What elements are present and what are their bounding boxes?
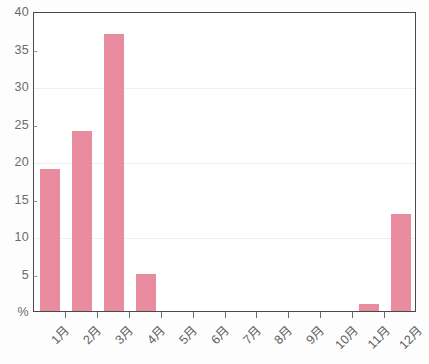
y-tick-label-15: 15 — [0, 193, 29, 206]
bar-chart: 40 35 30 25 20 15 10 5 % — [0, 0, 429, 364]
x-tick-label-9: 9月 — [301, 320, 329, 348]
bar-2[interactable] — [72, 131, 92, 311]
y-axis-unit-percent: % — [0, 306, 29, 319]
x-tick-label-1: 1月 — [46, 320, 74, 348]
y-tick-label-20: 20 — [0, 156, 29, 169]
x-tick-label-4: 4月 — [141, 320, 169, 348]
x-tick-label-7: 7月 — [237, 320, 265, 348]
bar-4[interactable] — [136, 274, 156, 312]
x-tick-label-11: 11月 — [362, 320, 394, 352]
y-axis: 40 35 30 25 20 15 10 5 % — [0, 0, 33, 364]
bar-slot-11 — [353, 13, 385, 311]
bar-3[interactable] — [104, 34, 124, 312]
x-tick-label-5: 5月 — [173, 320, 201, 348]
bar-slot-9 — [289, 13, 321, 311]
bar-slot-10 — [321, 13, 353, 311]
bar-12[interactable] — [391, 214, 411, 312]
bar-slot-12 — [385, 13, 417, 311]
bar-slot-2 — [66, 13, 98, 311]
plot-area — [33, 12, 416, 312]
bar-slot-7 — [226, 13, 258, 311]
x-tick-label-3: 3月 — [109, 320, 137, 348]
x-tick-label-8: 8月 — [269, 320, 297, 348]
y-tick-label-30: 30 — [0, 81, 29, 94]
y-tick-label-35: 35 — [0, 43, 29, 56]
bar-11[interactable] — [359, 304, 379, 312]
x-tick-label-10: 10月 — [330, 320, 363, 353]
x-tick-label-12: 12月 — [394, 320, 427, 353]
bar-slot-5 — [162, 13, 194, 311]
bar-slot-3 — [98, 13, 130, 311]
bar-slot-1 — [34, 13, 66, 311]
bars-layer — [34, 13, 415, 311]
bar-slot-6 — [194, 13, 226, 311]
x-axis: 1月 2月 3月 4月 5月 6月 7月 8月 9月 10月 11月 12月 — [33, 318, 416, 364]
y-tick-label-5: 5 — [0, 268, 29, 281]
y-tick-label-10: 10 — [0, 231, 29, 244]
x-tick-label-2: 2月 — [77, 320, 105, 348]
bar-slot-4 — [130, 13, 162, 311]
x-tick-label-6: 6月 — [205, 320, 233, 348]
bar-slot-8 — [257, 13, 289, 311]
bar-1[interactable] — [40, 169, 60, 312]
y-tick-label-40: 40 — [0, 6, 29, 19]
y-tick-label-25: 25 — [0, 118, 29, 131]
